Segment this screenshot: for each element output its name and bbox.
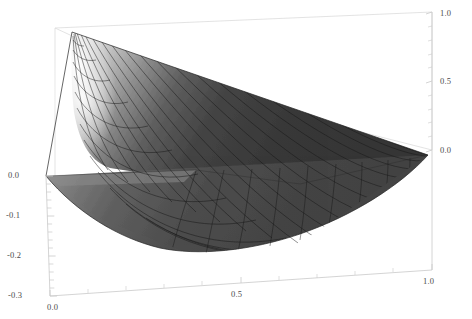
y-tick-label-1: 0.5 (440, 77, 451, 86)
y-tick-label-0: 1.0 (440, 9, 451, 18)
y-axis (426, 12, 432, 270)
surface-plot-3d: 0.0 -0.1 -0.2 -0.3 0.0 0.5 1.0 1.0 0.5 0… (0, 0, 472, 319)
z-axis-line (46, 176, 50, 296)
z-tick-label-3: -0.3 (8, 291, 22, 300)
plot-canvas (0, 0, 472, 319)
z-tick-label-1: -0.1 (6, 211, 20, 220)
y-tick-label-2: 0.0 (440, 146, 451, 155)
z-axis (46, 176, 57, 296)
x-tick-label-0: 0.0 (47, 303, 58, 312)
z-tick-label-0: 0.0 (8, 171, 19, 180)
surface-mesh (46, 30, 428, 255)
x-tick-label-2: 1.0 (423, 277, 434, 286)
x-tick-label-1: 0.5 (231, 290, 242, 299)
z-tick-label-2: -0.2 (7, 251, 21, 260)
